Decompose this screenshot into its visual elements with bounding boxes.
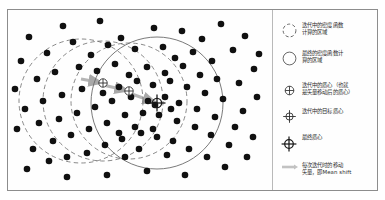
data-point bbox=[56, 116, 63, 123]
figure-caption-area bbox=[0, 192, 385, 200]
data-point bbox=[230, 47, 237, 54]
data-point bbox=[167, 78, 174, 85]
data-point bbox=[44, 50, 51, 57]
data-point bbox=[102, 142, 109, 149]
data-point bbox=[244, 154, 251, 161]
legend-item-iteration-region: 迭代中的密度函数 计算的区域 bbox=[276, 22, 343, 39]
legend-item-final-region: 最终的密度函数计 算的区域 bbox=[276, 50, 343, 67]
data-point bbox=[60, 23, 67, 30]
data-point bbox=[70, 39, 77, 46]
data-point bbox=[97, 18, 104, 25]
legend-item-iteration-centroid: 迭代中的质心（也就 是矢量移动后的质心） bbox=[276, 82, 353, 99]
legend-item-final-centroid: 最终质心 bbox=[276, 134, 322, 154]
data-point bbox=[184, 84, 191, 91]
data-point bbox=[134, 78, 141, 85]
data-point bbox=[150, 82, 157, 89]
data-point bbox=[105, 42, 112, 49]
data-point bbox=[190, 49, 197, 56]
data-point bbox=[118, 35, 125, 42]
data-point bbox=[144, 64, 151, 71]
data-point bbox=[88, 52, 95, 59]
data-point bbox=[172, 55, 179, 62]
data-point bbox=[156, 112, 163, 119]
data-point bbox=[151, 25, 158, 32]
data-point bbox=[109, 98, 116, 105]
data-point bbox=[226, 142, 233, 149]
data-point bbox=[209, 58, 216, 65]
data-point bbox=[132, 46, 139, 53]
data-point bbox=[162, 70, 169, 77]
data-point bbox=[212, 114, 219, 121]
data-point bbox=[122, 154, 129, 161]
dashed-iteration-circle bbox=[19, 39, 143, 163]
dashed-iteration-circle bbox=[71, 43, 187, 159]
data-point bbox=[138, 130, 145, 137]
data-point bbox=[214, 76, 221, 83]
data-point bbox=[250, 134, 257, 141]
data-point bbox=[192, 124, 199, 131]
data-point bbox=[179, 28, 186, 35]
solid-circle-icon bbox=[276, 50, 302, 67]
legend-label-final-region: 最终的密度函数计 算的区域 bbox=[302, 50, 343, 65]
data-point bbox=[40, 98, 47, 105]
data-point bbox=[199, 36, 206, 43]
data-point bbox=[176, 100, 183, 107]
data-point bbox=[208, 132, 215, 139]
legend-label-shift-vector: 每次迭代时的移动 矢量，即Mean shift bbox=[302, 162, 351, 177]
centroid-marker bbox=[125, 87, 133, 95]
data-point bbox=[79, 86, 86, 93]
crosshair-extended-icon bbox=[276, 108, 302, 125]
data-point bbox=[94, 68, 101, 75]
data-point bbox=[186, 146, 193, 153]
data-point bbox=[104, 172, 111, 179]
data-point bbox=[74, 110, 81, 117]
data-point bbox=[220, 96, 227, 103]
data-point bbox=[180, 63, 187, 70]
data-point bbox=[52, 69, 59, 76]
data-point bbox=[36, 120, 43, 127]
data-point bbox=[240, 108, 247, 115]
legend-label-final-centroid: 最终质心 bbox=[302, 134, 322, 141]
crosshair-inscribed-icon bbox=[276, 82, 302, 99]
crosshair-final-icon bbox=[276, 134, 302, 154]
data-point bbox=[112, 61, 119, 68]
data-point bbox=[24, 166, 31, 173]
data-point bbox=[242, 33, 249, 40]
data-point bbox=[197, 72, 204, 79]
data-point bbox=[236, 80, 243, 87]
data-point bbox=[30, 146, 37, 153]
data-point bbox=[254, 94, 261, 101]
data-point bbox=[50, 138, 57, 145]
data-point bbox=[182, 172, 189, 179]
data-point bbox=[76, 64, 83, 71]
dashed-circle-icon bbox=[276, 22, 302, 39]
data-point bbox=[104, 120, 111, 127]
data-point bbox=[164, 152, 171, 159]
data-point bbox=[92, 104, 99, 111]
data-point bbox=[154, 134, 161, 141]
data-point bbox=[132, 124, 139, 131]
data-point bbox=[174, 118, 181, 125]
data-point bbox=[86, 126, 93, 133]
data-point bbox=[14, 126, 21, 133]
data-point bbox=[232, 124, 239, 131]
data-point bbox=[222, 164, 229, 171]
legend-item-shift-vector: 每次迭代时的移动 矢量，即Mean shift bbox=[276, 162, 351, 177]
data-point bbox=[12, 86, 19, 93]
data-point bbox=[22, 106, 29, 113]
legend-label-iteration-centroid: 迭代中的质心（也就 是矢量移动后的质心） bbox=[302, 82, 353, 97]
data-point bbox=[119, 136, 126, 143]
data-point bbox=[202, 90, 209, 97]
data-point bbox=[256, 51, 263, 58]
centroid-marker bbox=[99, 79, 107, 87]
legend-label-iteration-region: 迭代中的密度函数 计算的区域 bbox=[302, 22, 343, 37]
mean-shift-figure: 迭代中的密度函数 计算的区域 最终的密度函数计 算的区域 迭代中的质心（也就 是… bbox=[0, 0, 385, 200]
data-point bbox=[126, 72, 133, 79]
legend-item-target-centroid: 迭代中的目标质心 bbox=[276, 108, 343, 125]
data-point bbox=[194, 106, 201, 113]
data-point bbox=[162, 94, 169, 101]
data-point bbox=[204, 154, 211, 161]
data-point bbox=[136, 146, 143, 153]
legend-label-target-centroid: 迭代中的目标质心 bbox=[302, 108, 343, 115]
data-point bbox=[68, 132, 75, 139]
